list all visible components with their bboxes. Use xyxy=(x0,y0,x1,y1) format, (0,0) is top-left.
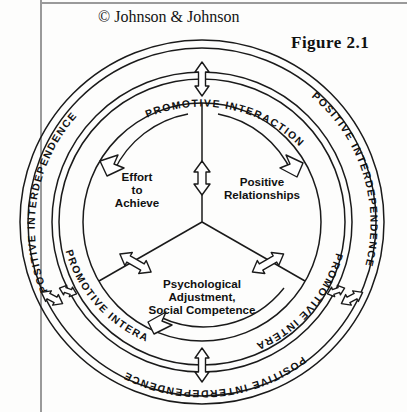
cooperative-learning-diagram: POSITIVE INTERDEPENDENCE POSITIVE INTERD… xyxy=(0,0,407,412)
outer-ring-label-bottom: POSITIVE INTERDEPENDENCE xyxy=(121,355,308,400)
sector-label-effort-to-achieve: Effort to Achieve xyxy=(115,170,160,209)
ring-crossing-arrow-inner-left xyxy=(58,283,78,298)
sector-label-psychological-adjustment: Psychological Adjustment, Social Compete… xyxy=(149,277,257,316)
effort-line-1: Effort xyxy=(122,170,153,183)
sector-label-positive-relationships: Positive Relationships xyxy=(224,175,300,201)
effort-line-3: Achieve xyxy=(115,196,160,209)
spoke-arrow-top xyxy=(194,161,210,195)
adjustment-line-2: Adjustment, xyxy=(169,290,236,303)
adjustment-line-1: Psychological xyxy=(163,277,241,290)
relationships-line-2: Relationships xyxy=(224,188,300,201)
adjustment-line-3: Social Competence xyxy=(149,303,257,316)
outer-ring-label-upper-right: POSITIVE INTERDEPENDENCE xyxy=(310,90,380,269)
inner-ring-label-top: PROMOTIVE INTERACTION xyxy=(144,98,307,149)
figure-canvas: © Johnson & Johnson Figure 2.1 POSITI xyxy=(0,0,407,412)
effort-line-2: to xyxy=(132,183,143,196)
relationships-line-1: Positive xyxy=(240,175,285,188)
